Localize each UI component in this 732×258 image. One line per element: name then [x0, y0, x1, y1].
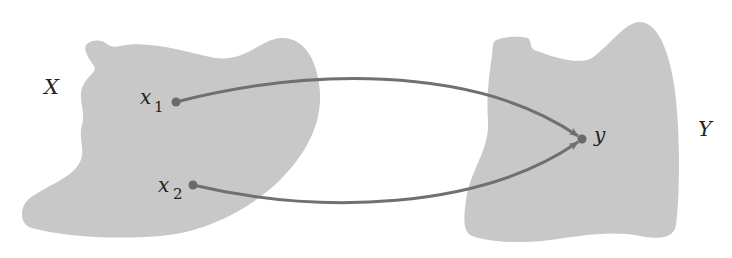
point-x2-subscript: 2	[173, 185, 183, 203]
diagram-canvas: X Y x 1 x 2 y	[0, 0, 732, 258]
point-y-label: y	[593, 123, 606, 147]
point-x2-label: x	[158, 173, 169, 197]
set-y-label: Y	[698, 117, 714, 141]
point-x2	[189, 181, 198, 190]
point-x1-subscript: 1	[154, 98, 164, 116]
set-x-label: X	[42, 75, 60, 99]
point-x1-label: x	[140, 85, 151, 109]
mapping-diagram: X Y x 1 x 2 y	[0, 0, 732, 258]
point-x1	[172, 98, 181, 107]
point-y	[578, 135, 587, 144]
set-x-region	[22, 38, 320, 238]
